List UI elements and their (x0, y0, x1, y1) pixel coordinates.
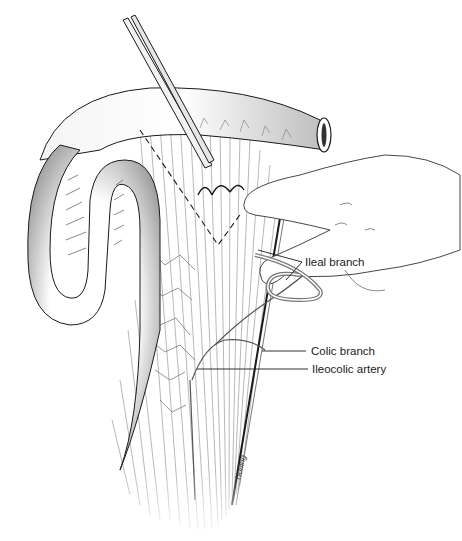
label-ileal-branch: Ileal branch (305, 256, 364, 268)
anatomy-drawing (0, 0, 462, 541)
label-colic-branch: Colic branch (311, 345, 375, 357)
bowel-loop (28, 145, 160, 470)
label-ileocolic-artery: Ileocolic artery (312, 363, 386, 375)
illustration: Ileal branch Colic branch Ileocolic arte… (0, 0, 462, 541)
ileocolic-vessels (190, 260, 320, 500)
